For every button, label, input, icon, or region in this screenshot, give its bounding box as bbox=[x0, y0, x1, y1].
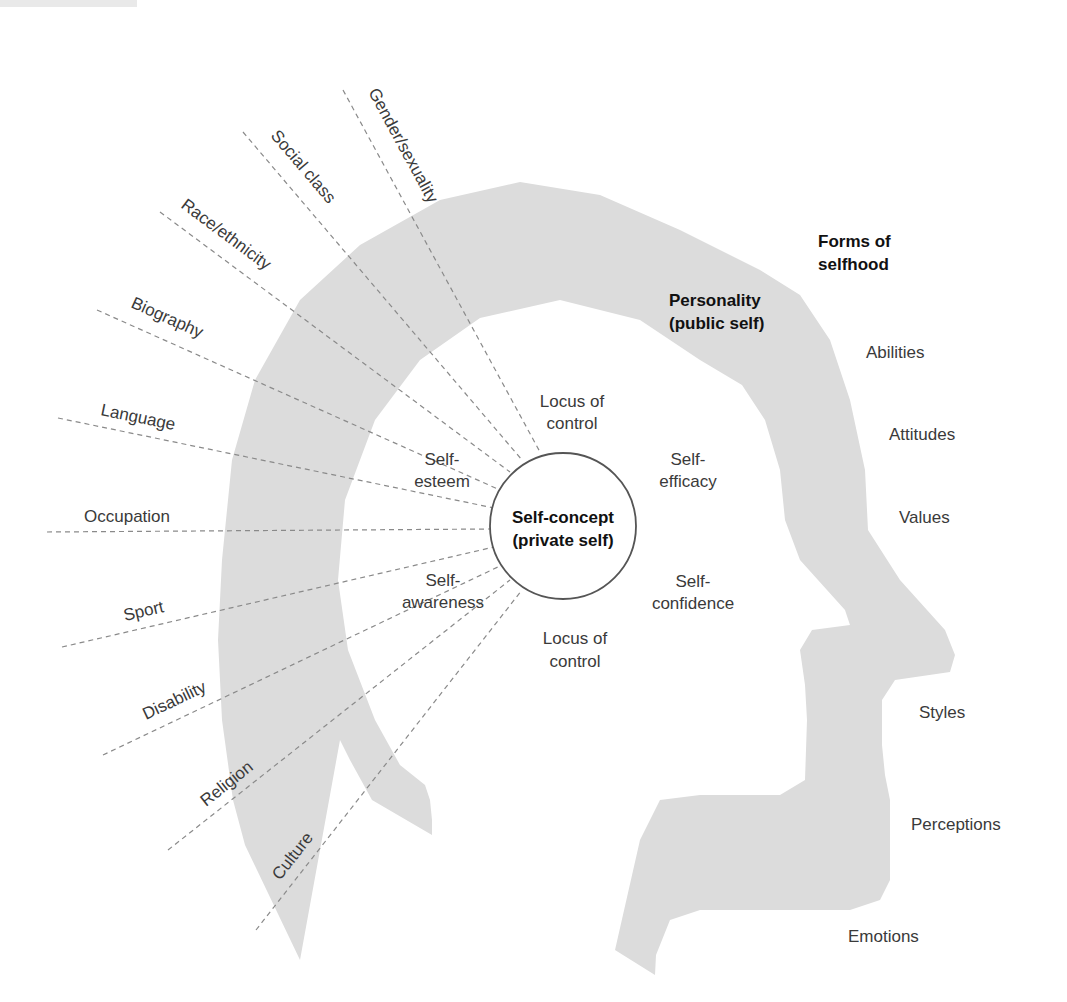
forms-title-1: Forms of bbox=[818, 232, 891, 251]
selfhood-diagram: Self-concept (private self) Locus of con… bbox=[0, 0, 1067, 1002]
locus-top-line1: Locus of bbox=[540, 392, 605, 411]
awareness-line2: awareness bbox=[402, 593, 484, 612]
personality-title-2: (public self) bbox=[669, 314, 764, 333]
form-styles: Styles bbox=[919, 703, 965, 722]
self-concept-title-1: Self-concept bbox=[512, 508, 614, 527]
locus-bottom-line1: Locus of bbox=[543, 629, 608, 648]
self-concept-title-2: (private self) bbox=[512, 531, 613, 550]
influence-sport: Sport bbox=[122, 597, 166, 625]
forms-title-2: selfhood bbox=[818, 255, 889, 274]
form-attitudes: Attitudes bbox=[889, 425, 955, 444]
locus-top-line2: control bbox=[546, 414, 597, 433]
confidence-line1: Self- bbox=[676, 572, 711, 591]
influence-occupation: Occupation bbox=[84, 507, 170, 526]
awareness-line1: Self- bbox=[426, 571, 461, 590]
efficacy-line2: efficacy bbox=[659, 472, 717, 491]
personality-title-1: Personality bbox=[669, 291, 761, 310]
form-perceptions: Perceptions bbox=[911, 815, 1001, 834]
influence-disability: Disability bbox=[140, 677, 210, 724]
esteem-line2: esteem bbox=[414, 472, 470, 491]
influence-biography: Biography bbox=[128, 293, 206, 342]
locus-bottom-line2: control bbox=[549, 652, 600, 671]
form-values: Values bbox=[899, 508, 950, 527]
form-emotions: Emotions bbox=[848, 927, 919, 946]
form-abilities: Abilities bbox=[866, 343, 925, 362]
influence-race-ethnicity: Race/ethnicity bbox=[178, 195, 275, 274]
confidence-line2: confidence bbox=[652, 594, 734, 613]
efficacy-line1: Self- bbox=[671, 450, 706, 469]
influence-gender-sexuality: Gender/sexuality bbox=[364, 85, 442, 207]
influence-social-class: Social class bbox=[267, 126, 340, 207]
esteem-line1: Self- bbox=[425, 450, 460, 469]
